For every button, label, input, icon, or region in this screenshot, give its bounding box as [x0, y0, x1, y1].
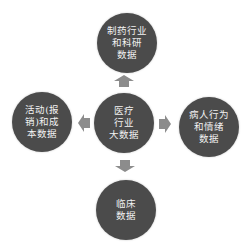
node-label-line: 临床 [116, 198, 136, 210]
node-label-line: 病人行为 [189, 109, 229, 121]
node-activity-cost-data: 活动(报 销)和成 本数据 [12, 92, 72, 152]
node-label-line: 数据 [116, 210, 136, 222]
node-label-line: 销)和成 [25, 116, 59, 128]
node-label-line: 大数据 [109, 129, 139, 141]
hub-spoke-diagram: 制药行业 和科研 数据 医疗 行业 大数据 活动(报 销)和成 本数据 病人行为… [0, 0, 244, 250]
node-label-line: 数据 [199, 133, 219, 145]
node-label-line: 制药行业 [107, 25, 147, 37]
node-clinical-data: 临床 数据 [96, 180, 156, 240]
node-medical-big-data: 医疗 行业 大数据 [94, 93, 154, 153]
node-label-line: 数据 [117, 49, 137, 61]
node-label-line: 和科研 [112, 37, 142, 49]
node-pharma-research-data: 制药行业 和科研 数据 [97, 13, 157, 73]
node-label-line: 医疗 [114, 105, 134, 117]
node-label-line: 行业 [114, 117, 134, 129]
node-label-line: 和情绪 [194, 121, 224, 133]
node-label-line: 本数据 [27, 128, 57, 140]
node-label-line: 活动(报 [25, 104, 59, 116]
node-patient-behavior-data: 病人行为 和情绪 数据 [179, 97, 239, 157]
